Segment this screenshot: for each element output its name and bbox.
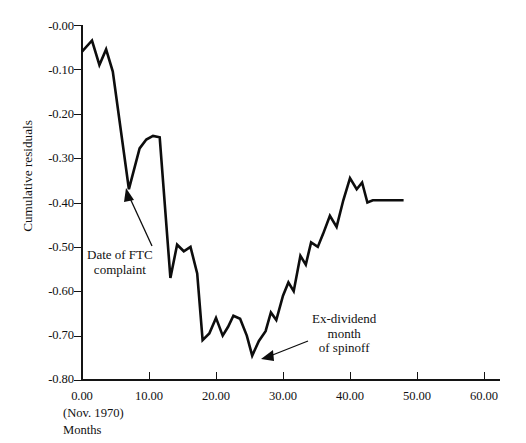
xtick-label: 40.00	[320, 389, 380, 404]
annotation-ftc-line-1: Date of FTC	[87, 248, 153, 263]
x-axis-title: Months	[63, 423, 102, 438]
ytick-label: -0.10	[22, 63, 74, 78]
ytick-label: -0.70	[22, 328, 74, 343]
xtick-label: 50.00	[387, 389, 447, 404]
xtick-label: 30.00	[253, 389, 313, 404]
chart-canvas	[0, 0, 526, 443]
xtick-label: 20.00	[186, 389, 246, 404]
ytick-label: -0.80	[22, 372, 74, 387]
annotation-exdiv-line-3: of spinoff	[312, 341, 376, 356]
ytick-label: -0.60	[22, 284, 74, 299]
chart-figure: -0.00 -0.10 -0.20 -0.30 -0.40 -0.50 -0.6…	[0, 0, 526, 443]
y-axis-title: Cumulative residuals	[20, 96, 36, 256]
chart-axes	[82, 25, 500, 380]
annotation-arrow-ftc	[124, 188, 152, 246]
ytick-label: -0.00	[22, 19, 74, 34]
x-axis-origin-note: (Nov. 1970)	[63, 406, 124, 421]
annotation-exdiv-line-2: month	[312, 327, 376, 342]
xtick-label: 0.00	[52, 389, 112, 404]
annotation-exdiv-line-1: Ex-dividend	[312, 312, 376, 327]
xtick-label: 10.00	[119, 389, 179, 404]
axis-ticks	[74, 26, 485, 381]
annotation-arrow-exdividend	[261, 341, 308, 361]
xtick-label: 60.00	[454, 389, 514, 404]
annotation-ftc-line-2: complaint	[87, 263, 153, 278]
annotation-ex-dividend-spinoff: Ex-dividend month of spinoff	[312, 312, 376, 356]
annotation-ftc-complaint: Date of FTC complaint	[87, 248, 153, 277]
